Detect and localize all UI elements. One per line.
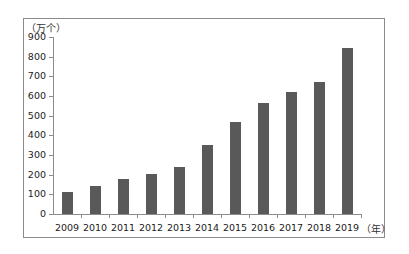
x-tick-mark [193, 214, 194, 218]
bar-2012 [146, 174, 157, 214]
y-tick-mark [49, 96, 53, 97]
x-tick-label: 2017 [277, 222, 305, 233]
x-tick-mark [81, 214, 82, 218]
x-tick-mark [361, 214, 362, 218]
x-tick-mark [137, 214, 138, 218]
y-tick-mark [49, 175, 53, 176]
x-axis-unit-label: （年） [361, 221, 391, 236]
x-tick-label: 2016 [249, 222, 277, 233]
y-tick-mark [49, 214, 53, 215]
y-tick-mark [49, 57, 53, 58]
bar-2019 [342, 48, 353, 214]
y-tick-mark [49, 116, 53, 117]
y-tick-mark [49, 37, 53, 38]
x-tick-mark [333, 214, 334, 218]
x-tick-mark [305, 214, 306, 218]
bar-2014 [202, 145, 213, 214]
y-tick-label: 400 [22, 130, 46, 140]
bar-2009 [62, 192, 73, 214]
y-tick-label: 500 [22, 111, 46, 121]
x-tick-label: 2009 [53, 222, 81, 233]
x-tick-label: 2011 [109, 222, 137, 233]
bar-2018 [314, 82, 325, 214]
bar-2015 [230, 122, 241, 214]
bar-2011 [118, 179, 129, 214]
x-tick-mark [221, 214, 222, 218]
y-tick-label: 200 [22, 170, 46, 180]
y-tick-label: 900 [22, 32, 46, 42]
x-tick-label: 2019 [333, 222, 361, 233]
y-tick-label: 0 [22, 209, 46, 219]
y-tick-label: 800 [22, 52, 46, 62]
bar-2016 [258, 103, 269, 214]
y-tick-mark [49, 135, 53, 136]
bar-2017 [286, 92, 297, 214]
x-tick-label: 2012 [137, 222, 165, 233]
x-axis [53, 214, 361, 215]
y-tick-label: 300 [22, 150, 46, 160]
y-tick-label: 100 [22, 189, 46, 199]
y-tick-mark [49, 76, 53, 77]
y-tick-label: 600 [22, 91, 46, 101]
y-axis [53, 37, 54, 214]
x-tick-mark [165, 214, 166, 218]
x-tick-label: 2014 [193, 222, 221, 233]
x-tick-label: 2015 [221, 222, 249, 233]
x-tick-mark [249, 214, 250, 218]
x-tick-mark [277, 214, 278, 218]
x-tick-label: 2018 [305, 222, 333, 233]
bar-2013 [174, 167, 185, 214]
x-tick-mark [109, 214, 110, 218]
y-tick-mark [49, 155, 53, 156]
bar-2010 [90, 186, 101, 214]
x-tick-label: 2010 [81, 222, 109, 233]
y-tick-label: 700 [22, 71, 46, 81]
y-tick-mark [49, 194, 53, 195]
x-tick-label: 2013 [165, 222, 193, 233]
